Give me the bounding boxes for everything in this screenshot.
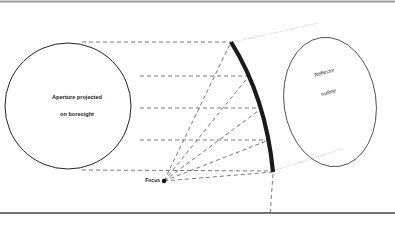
diagram-canvas: Aperture projected on boresight Reflecto… [0, 0, 395, 228]
reflector-label-line1: Reflector [314, 66, 336, 77]
focus-rays [164, 42, 273, 181]
reflector-label-line2: outline [320, 87, 336, 97]
aperture-circle [5, 43, 131, 169]
reflector-outline-ellipse [275, 31, 384, 173]
focus-label: Focus [145, 177, 160, 183]
aperture-label-line1: Aperture projected [52, 94, 103, 100]
horizontal-rays [82, 42, 273, 171]
reflector-diagram: Aperture projected on boresight Reflecto… [0, 0, 395, 228]
aperture-label-line2: on boresight [60, 111, 94, 117]
focus-point-icon [162, 179, 166, 183]
vertical-axis-line [270, 174, 273, 216]
projection-line-top [233, 23, 318, 42]
